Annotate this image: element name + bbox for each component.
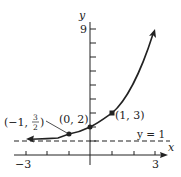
point-1: [110, 111, 115, 116]
point-a-label-suffix: ): [40, 116, 44, 129]
asymptote-label: y = 1: [136, 128, 165, 140]
y-axis-label: y: [78, 9, 86, 22]
graph: y 9 x −3 3 y = 1 (−1, 3 2 ) (0, 2) (1, 3…: [0, 0, 181, 177]
curve: [30, 34, 153, 139]
x-tick-neg3: −3: [15, 158, 31, 171]
x-axis-arrow-icon: [160, 152, 168, 158]
point-a-label-den: 2: [33, 123, 38, 132]
x-axis-label: x: [168, 141, 175, 154]
point-b-label: (0, 2): [59, 113, 89, 126]
point-a-label-prefix: (−1,: [4, 116, 28, 129]
x-tick-3: 3: [152, 158, 159, 171]
y-tick-9: 9: [80, 23, 87, 36]
point-neg1: [67, 132, 72, 137]
point-a-label-num: 3: [33, 113, 38, 122]
point-c-label: (1, 3): [115, 109, 145, 122]
